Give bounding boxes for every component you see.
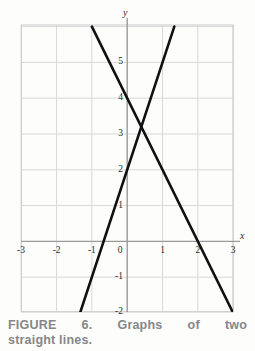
caption-label: FIGURE: [8, 318, 56, 333]
plot-area: -3 -2 -1 0 1 2 3 5 4 3 2 1 -1 -2 y x: [0, 0, 255, 320]
caption-word-two: two: [225, 318, 247, 333]
y-tick-label-2: 2: [118, 165, 123, 175]
x-tick-label-1: 1: [160, 246, 165, 256]
caption-word-graphs: Graphs: [117, 318, 162, 333]
caption-line-1: FIGURE 6. Graphs of two: [8, 318, 247, 333]
x-tick-label--2: -2: [53, 246, 61, 256]
x-tick-label--1: -1: [88, 246, 96, 256]
caption-number: 6.: [82, 318, 93, 333]
x-tick-label--3: -3: [17, 246, 25, 256]
y-tick-label--1: -1: [115, 272, 123, 282]
graph-canvas: [0, 0, 255, 320]
figure-caption: FIGURE 6. Graphs of two straight lines.: [8, 318, 247, 348]
caption-word-of: of: [188, 318, 200, 333]
caption-line-2: straight lines.: [8, 333, 247, 348]
x-tick-label-2: 2: [195, 246, 200, 256]
y-tick-label-3: 3: [118, 129, 123, 139]
y-axis-label: y: [123, 8, 127, 18]
x-tick-label-3: 3: [231, 246, 236, 256]
y-tick-label-5: 5: [118, 58, 123, 68]
y-tick-label-1: 1: [118, 201, 123, 211]
y-tick-label-4: 4: [118, 93, 123, 103]
y-tick-label--2: -2: [115, 307, 123, 317]
x-tick-label-0: 0: [118, 246, 123, 256]
x-axis-label: x: [240, 231, 244, 241]
figure-container: -3 -2 -1 0 1 2 3 5 4 3 2 1 -1 -2 y x FIG…: [0, 0, 255, 351]
